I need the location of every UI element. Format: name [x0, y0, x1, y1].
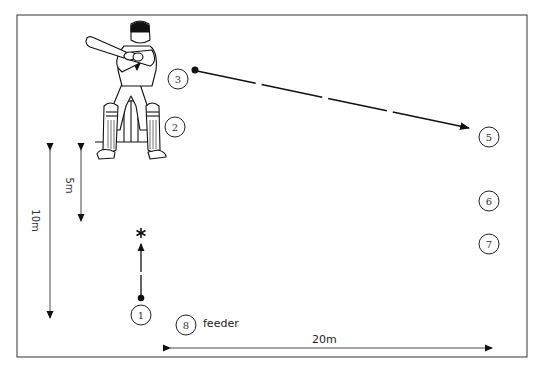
position-2: 2 — [165, 117, 185, 137]
dimension-5m-label: 5m — [64, 177, 75, 193]
svg-text:5: 5 — [486, 132, 492, 143]
svg-text:1: 1 — [138, 310, 144, 321]
svg-text:3: 3 — [175, 74, 181, 85]
ball-start-dot — [192, 67, 199, 74]
svg-text:6: 6 — [486, 196, 492, 207]
position-5: 5 — [479, 127, 499, 147]
position-3: 3 — [168, 69, 188, 89]
position-6: 6 — [479, 191, 499, 211]
dimension-10m-label: 10m — [30, 209, 41, 231]
ball-path-arrow — [197, 71, 469, 128]
position-7: 7 — [479, 234, 499, 254]
svg-text:2: 2 — [172, 122, 178, 133]
drill-diagram: 3 2 5 6 7 1 8 feeder 20m 10m 5m — [0, 0, 542, 374]
asterisk-target-icon — [137, 228, 146, 238]
batsman-icon — [86, 21, 166, 159]
feeder-label: feeder — [203, 317, 239, 330]
field-border — [17, 15, 527, 357]
position-1: 1 — [131, 305, 151, 325]
dimension-20m-label: 20m — [312, 333, 337, 346]
feeder-ball-dot — [138, 295, 145, 302]
svg-text:8: 8 — [183, 320, 189, 331]
position-8-feeder: 8 — [176, 315, 196, 335]
svg-text:7: 7 — [486, 239, 492, 250]
diagram-canvas: 3 2 5 6 7 1 8 — [0, 0, 542, 374]
